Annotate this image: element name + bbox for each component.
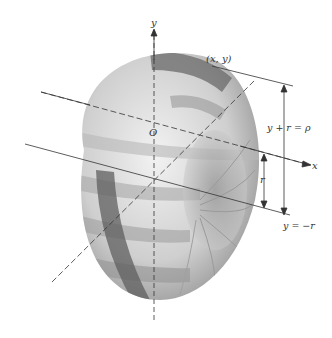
torus-diagram: y x O (x, y) y + r = ρ r y = −r (0, 0, 332, 338)
y-axis-label: y (150, 17, 157, 28)
rho-label: y + r = ρ (266, 122, 311, 133)
origin-label: O (149, 127, 157, 138)
x-axis-label: x (312, 160, 318, 171)
r-label: r (260, 174, 266, 185)
lower-line-label: y = −r (282, 220, 316, 231)
y-axis-arrow-icon (151, 29, 157, 36)
point-label: (x, y) (206, 53, 232, 64)
torus-surface (60, 52, 260, 300)
x-axis-arrow-icon (302, 161, 311, 167)
